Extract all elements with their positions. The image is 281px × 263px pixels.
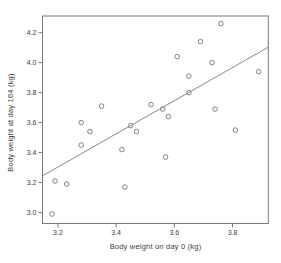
data-point bbox=[163, 155, 168, 160]
y-tick-label: 3.2 bbox=[27, 179, 37, 186]
data-point bbox=[198, 39, 203, 44]
trend-line bbox=[43, 47, 269, 176]
y-tick-label: 4.0 bbox=[27, 59, 37, 66]
data-point bbox=[166, 114, 171, 119]
x-tick-label: 3.2 bbox=[53, 229, 63, 236]
data-point bbox=[233, 128, 238, 133]
data-point bbox=[88, 129, 93, 134]
x-tick-label: 3.8 bbox=[228, 229, 238, 236]
data-point bbox=[79, 120, 84, 125]
data-point bbox=[210, 60, 215, 65]
x-tick-label: 3.4 bbox=[111, 229, 121, 236]
data-point bbox=[50, 212, 55, 217]
data-point bbox=[53, 179, 58, 184]
data-point bbox=[256, 69, 261, 74]
scatter-plot-figure: 3.23.43.63.83.03.23.43.63.84.04.2 Body w… bbox=[0, 0, 281, 263]
data-point bbox=[134, 129, 139, 134]
data-point bbox=[149, 102, 154, 107]
data-point bbox=[64, 182, 69, 187]
plot-svg: 3.23.43.63.83.03.23.43.63.84.04.2 bbox=[0, 0, 281, 263]
x-axis-title: Body weight on day 0 (kg) bbox=[0, 242, 281, 251]
data-point bbox=[175, 54, 180, 59]
plot-box bbox=[43, 16, 269, 224]
y-tick-label: 4.2 bbox=[27, 29, 37, 36]
y-tick-label: 3.4 bbox=[27, 149, 37, 156]
data-point bbox=[123, 185, 128, 190]
data-point bbox=[187, 74, 192, 79]
x-tick-label: 3.6 bbox=[169, 229, 179, 236]
y-tick-label: 3.8 bbox=[27, 89, 37, 96]
data-point bbox=[120, 147, 125, 152]
y-axis-title: Body weight at day 164 (kg) bbox=[6, 58, 15, 188]
data-point bbox=[79, 143, 84, 148]
y-tick-label: 3.6 bbox=[27, 119, 37, 126]
y-tick-label: 3.0 bbox=[27, 209, 37, 216]
data-point bbox=[213, 107, 218, 112]
data-point bbox=[219, 21, 224, 26]
data-point bbox=[99, 104, 104, 109]
